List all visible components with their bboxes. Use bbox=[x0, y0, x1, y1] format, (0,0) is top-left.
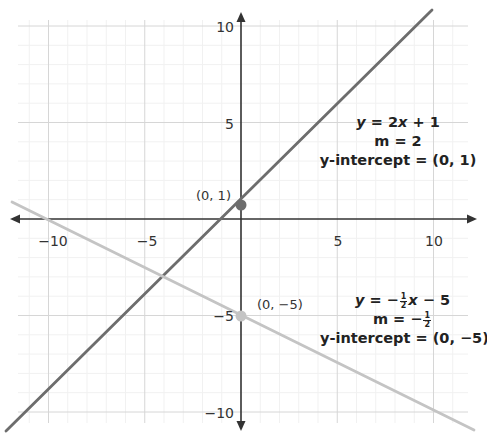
y-tick-10: 10 bbox=[216, 19, 234, 35]
point-label-0-neg5: (0, −5) bbox=[257, 297, 303, 312]
coordinate-plane: −10 −5 5 10 10 5 −5 −10 (0, 1) (0, −5) bbox=[0, 0, 487, 440]
x-axis-right-arrow-icon bbox=[467, 215, 477, 224]
fraction-one-half: 12 bbox=[423, 312, 431, 329]
x-tick-5: 5 bbox=[334, 233, 343, 249]
point-label-0-1: (0, 1) bbox=[196, 188, 231, 203]
x-axis-left-arrow-icon bbox=[10, 215, 20, 224]
line1-slope: m = 2 bbox=[318, 132, 478, 151]
point-0-neg5 bbox=[236, 311, 247, 322]
line2-slope: m = −12 bbox=[320, 310, 485, 329]
x-tick-10: 10 bbox=[425, 233, 443, 249]
annotation-line2: y = −12x − 5 m = −12 y-intercept = (0, −… bbox=[320, 291, 485, 348]
line1-intercept: y-intercept = (0, 1) bbox=[318, 151, 478, 170]
minor-grid bbox=[18, 20, 468, 423]
line1-equation: y = 2x + 1 bbox=[318, 113, 478, 132]
y-tick-neg5: −5 bbox=[213, 308, 234, 324]
line-y-2x-plus-1 bbox=[6, 10, 432, 431]
x-tick-neg10: −10 bbox=[38, 233, 68, 249]
line2-equation: y = −12x − 5 bbox=[320, 291, 485, 310]
point-0-1 bbox=[236, 200, 247, 211]
y-tick-5: 5 bbox=[225, 116, 234, 132]
x-axis bbox=[10, 215, 477, 224]
x-tick-neg5: −5 bbox=[137, 233, 158, 249]
major-grid bbox=[18, 20, 468, 423]
y-axis bbox=[237, 12, 246, 431]
y-axis-up-arrow-icon bbox=[237, 12, 246, 22]
annotation-line1: y = 2x + 1 m = 2 y-intercept = (0, 1) bbox=[318, 113, 478, 170]
y-axis-down-arrow-icon bbox=[237, 421, 246, 431]
line2-intercept: y-intercept = (0, −5) bbox=[320, 329, 485, 348]
fraction-one-half: 12 bbox=[400, 293, 408, 310]
y-tick-neg10: −10 bbox=[204, 405, 234, 421]
